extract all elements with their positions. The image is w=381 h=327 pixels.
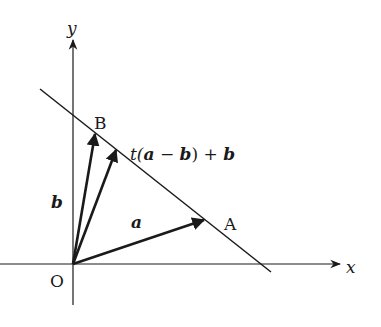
- origin-label: O: [50, 271, 64, 291]
- p-label-part-0: t(: [130, 144, 144, 164]
- point-b-label: B: [94, 113, 107, 133]
- point-a-label: A: [223, 214, 237, 234]
- p-label-part-3: b: [180, 144, 192, 164]
- y-axis-label: y: [66, 18, 77, 38]
- p-label-part-1: a: [143, 144, 154, 164]
- vector-p: [73, 150, 116, 264]
- p-label-part-5: b: [223, 144, 235, 164]
- vector-p-label: t(a − b) + b: [130, 144, 235, 164]
- line-ab: [40, 89, 271, 272]
- x-axis-label: x: [346, 257, 356, 277]
- vector-a-label: a: [131, 212, 142, 232]
- vector-b-label: b: [51, 192, 63, 212]
- vector-b: [73, 134, 95, 264]
- p-label-part-4: ) +: [191, 144, 223, 164]
- p-label-part-2: −: [154, 144, 179, 164]
- vector-diagram: y x O B A b a t(a − b) + b: [0, 0, 381, 327]
